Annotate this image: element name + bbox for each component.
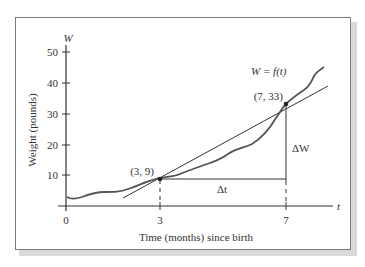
y-tick-label-50: 50 [47,46,59,58]
curve-label: W = f(t) [251,65,287,78]
point-label-7-33: (7, 33) [254,90,284,103]
x-tick-label-0: 0 [63,214,69,226]
x-axis-title: Time (months) since birth [139,231,254,244]
point-label-3-9: (3, 9) [130,165,154,178]
y-tick-label-30: 30 [47,108,59,120]
chart-svg: 50 40 30 20 10 0 3 7 W t Weight (pounds)… [0,0,365,267]
y-tick-label-10: 10 [47,169,59,181]
y-axis-variable: W [63,32,73,44]
x-tick-label-7: 7 [283,214,289,226]
y-tick-label-20: 20 [47,139,59,151]
x-tick-label-3: 3 [157,214,163,226]
delta-t-label: Δt [217,183,227,195]
y-tick-label-40: 40 [47,77,59,89]
x-axis-variable: t [337,200,341,212]
delta-w-label: ΔW [292,142,310,154]
y-axis-title: Weight (pounds) [26,93,39,167]
point-7-33 [284,102,289,107]
figure: 50 40 30 20 10 0 3 7 W t Weight (pounds)… [0,0,365,267]
point-3-9 [158,177,163,182]
